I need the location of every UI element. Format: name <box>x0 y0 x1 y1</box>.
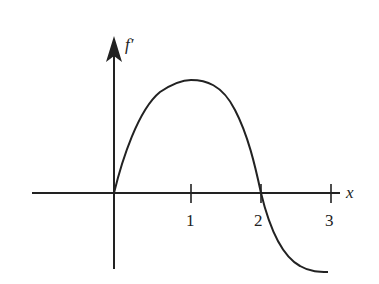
x-tick-label-3: 3 <box>325 211 334 230</box>
f-prime-curve <box>114 80 328 272</box>
x-axis-label: x <box>345 183 354 202</box>
derivative-graph: f′ x 1 2 3 <box>0 0 379 284</box>
x-tick-label-1: 1 <box>186 211 195 230</box>
x-tick-label-2: 2 <box>254 211 263 230</box>
y-axis-label: f′ <box>125 35 134 54</box>
